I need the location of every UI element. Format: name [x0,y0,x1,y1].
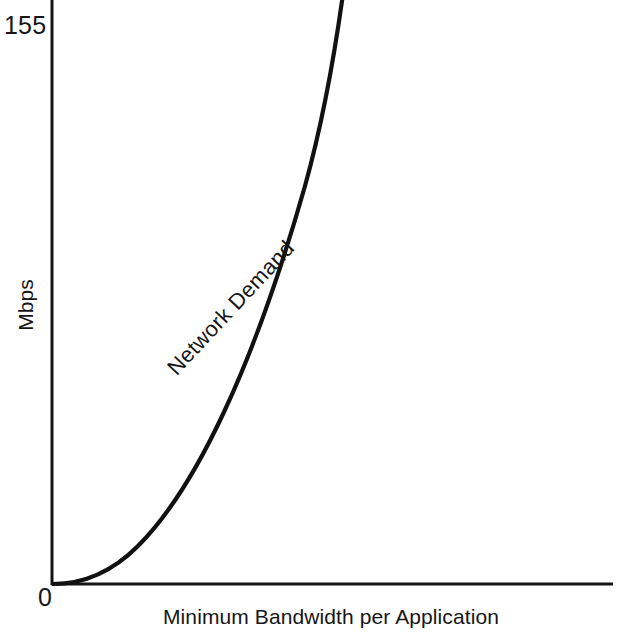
network-demand-curve [53,0,343,584]
chart-figure: 155 0 Mbps Minimum Bandwidth per Applica… [0,0,617,634]
y-axis-zero-tick-label: 0 [38,583,52,612]
x-axis-title: Minimum Bandwidth per Application [163,605,499,629]
chart-plot-area [0,0,617,634]
y-axis-max-tick-label: 155 [4,11,46,40]
y-axis-title: Mbps [14,265,38,345]
